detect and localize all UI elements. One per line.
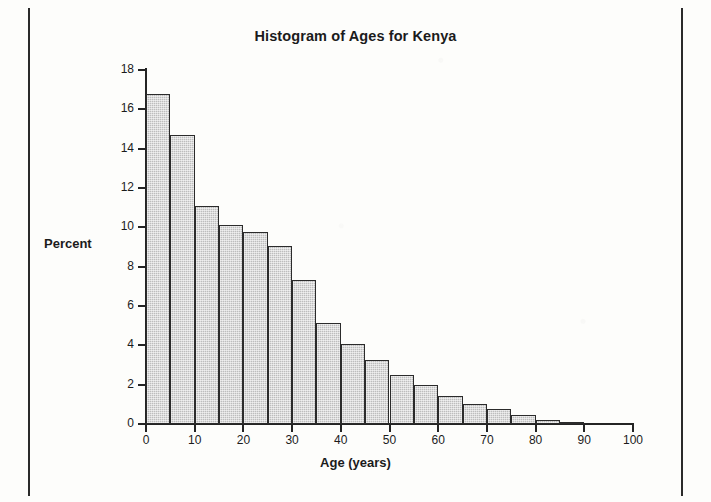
histogram-bar	[341, 344, 365, 424]
y-tick-mark	[138, 266, 145, 268]
histogram-bar	[243, 232, 267, 424]
x-tick-label: 20	[223, 433, 263, 447]
y-tick-label: 16	[108, 101, 134, 115]
histogram-bar	[560, 422, 584, 424]
y-tick-label: 2	[108, 377, 134, 391]
histogram-bar	[292, 280, 316, 424]
x-tick-mark	[437, 425, 439, 432]
y-tick-label: 6	[108, 298, 134, 312]
x-tick-label: 70	[467, 433, 507, 447]
x-tick-mark	[583, 425, 585, 432]
y-tick-label: 14	[108, 141, 134, 155]
x-tick-label: 30	[272, 433, 312, 447]
x-tick-label: 90	[564, 433, 604, 447]
plot-area: 024681012141618 0102030405060708090100	[0, 0, 711, 502]
x-tick-mark	[486, 425, 488, 432]
x-tick-label: 80	[516, 433, 556, 447]
y-tick-label: 18	[108, 62, 134, 76]
x-tick-mark	[632, 425, 634, 432]
x-tick-mark	[535, 425, 537, 432]
histogram-bar	[170, 135, 194, 424]
histogram-bar	[146, 94, 170, 424]
histogram-bar	[390, 375, 414, 424]
x-tick-mark	[145, 425, 147, 432]
y-tick-mark	[138, 187, 145, 189]
x-tick-mark	[340, 425, 342, 432]
x-tick-label: 10	[175, 433, 215, 447]
histogram-bar	[414, 385, 438, 424]
histogram-bar	[195, 206, 219, 424]
y-tick-label: 10	[108, 219, 134, 233]
histogram-bar	[438, 396, 462, 424]
histogram-bar	[487, 409, 511, 424]
y-tick-mark	[138, 108, 145, 110]
histogram-chart: Histogram of Ages for Kenya Percent Age …	[0, 0, 711, 502]
histogram-bar	[365, 360, 389, 424]
x-tick-label: 100	[613, 433, 653, 447]
x-tick-mark	[242, 425, 244, 432]
x-tick-label: 60	[418, 433, 458, 447]
histogram-bar	[511, 415, 535, 424]
x-tick-label: 50	[370, 433, 410, 447]
y-tick-mark	[138, 384, 145, 386]
histogram-bar	[219, 225, 243, 424]
y-tick-label: 8	[108, 259, 134, 273]
histogram-bar	[536, 420, 560, 424]
x-tick-label: 0	[126, 433, 166, 447]
y-tick-label: 0	[108, 416, 134, 430]
y-tick-label: 12	[108, 180, 134, 194]
x-tick-label: 40	[321, 433, 361, 447]
y-tick-mark	[138, 305, 145, 307]
histogram-bar	[316, 323, 340, 424]
y-tick-mark	[138, 148, 145, 150]
histogram-bar	[463, 404, 487, 424]
y-tick-mark	[138, 423, 145, 425]
y-tick-mark	[138, 69, 145, 71]
x-tick-mark	[194, 425, 196, 432]
histogram-bar	[268, 246, 292, 424]
y-tick-mark	[138, 344, 145, 346]
x-tick-mark	[389, 425, 391, 432]
x-tick-mark	[291, 425, 293, 432]
y-tick-mark	[138, 226, 145, 228]
y-tick-label: 4	[108, 337, 134, 351]
